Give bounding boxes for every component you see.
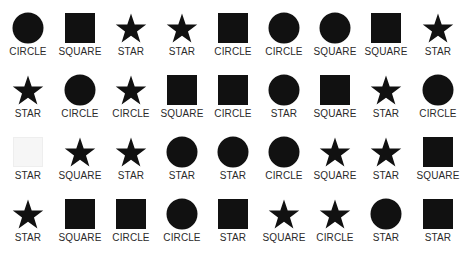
circle-icon — [370, 198, 402, 230]
shape-label: STAR — [2, 170, 54, 181]
shape-label: STAR — [412, 232, 464, 243]
grid-cell: STAR — [412, 0, 464, 62]
star-icon — [64, 136, 96, 168]
shape-label: CIRCLE — [105, 232, 157, 243]
star-icon — [12, 198, 44, 230]
shape-label: SQUARE — [360, 46, 412, 57]
circle-icon — [166, 136, 198, 168]
shape-label: STAR — [360, 232, 412, 243]
grid-cell: SQUARE — [309, 0, 361, 62]
star-icon — [166, 12, 198, 44]
square-icon — [64, 12, 96, 44]
grid-cell: CIRCLE — [54, 62, 106, 124]
shape-label: STAR — [105, 46, 157, 57]
grid-cell: SQUARE — [54, 124, 106, 186]
grid-cell: SQUARE — [258, 186, 310, 248]
shape-label: STAR — [207, 170, 259, 181]
shape-label: STAR — [207, 232, 259, 243]
star-icon — [370, 136, 402, 168]
square-icon — [217, 12, 249, 44]
shape-label: SQUARE — [54, 170, 106, 181]
shape-label: CIRCLE — [309, 232, 361, 243]
shape-label: STAR — [360, 108, 412, 119]
star-icon — [319, 198, 351, 230]
shape-label: CIRCLE — [156, 232, 208, 243]
circle-icon — [64, 74, 96, 106]
shape-label: SQUARE — [412, 170, 464, 181]
grid-cell: SQUARE — [309, 124, 361, 186]
grid-cell: STAR — [2, 62, 54, 124]
shape-label: STAR — [258, 108, 310, 119]
grid-cell: STAR — [258, 62, 310, 124]
grid-cell: STAR — [156, 124, 208, 186]
square-icon — [422, 198, 454, 230]
square-icon — [166, 74, 198, 106]
square-icon — [370, 12, 402, 44]
shape-label: SQUARE — [258, 232, 310, 243]
shape-label: STAR — [105, 170, 157, 181]
shape-label: CIRCLE — [105, 108, 157, 119]
grid-cell: SQUARE — [54, 186, 106, 248]
circle-icon — [217, 136, 249, 168]
shape-label: STAR — [360, 170, 412, 181]
shape-label-grid: CIRCLESQUARESTARSTARCIRCLECIRCLESQUARESQ… — [0, 0, 467, 259]
grid-cell: STAR — [412, 186, 464, 248]
grid-cell: STAR — [360, 62, 412, 124]
grid-cell: STAR — [360, 124, 412, 186]
circle-icon — [422, 74, 454, 106]
star-icon — [422, 12, 454, 44]
shape-label: CIRCLE — [258, 170, 310, 181]
shape-label: STAR — [2, 108, 54, 119]
grid-cell: STAR — [105, 124, 157, 186]
grid-cell: CIRCLE — [309, 186, 361, 248]
grid-cell: STAR — [207, 186, 259, 248]
grid-cell: CIRCLE — [207, 62, 259, 124]
grid-cell: STAR — [360, 186, 412, 248]
grid-cell: STAR — [2, 186, 54, 248]
grid-cell: SQUARE — [156, 62, 208, 124]
grid-cell: SQUARE — [309, 62, 361, 124]
shape-label: SQUARE — [54, 232, 106, 243]
shape-label: SQUARE — [54, 46, 106, 57]
shape-label: SQUARE — [309, 170, 361, 181]
star-icon — [115, 74, 147, 106]
star-icon — [115, 136, 147, 168]
shape-label: SQUARE — [309, 108, 361, 119]
circle-icon — [319, 12, 351, 44]
circle-icon — [268, 12, 300, 44]
grid-cell: CIRCLE — [156, 186, 208, 248]
shape-label: STAR — [412, 46, 464, 57]
star-icon — [370, 74, 402, 106]
grid-cell: CIRCLE — [258, 0, 310, 62]
grid-cell: SQUARE — [54, 0, 106, 62]
grid-cell: STAR — [2, 124, 54, 186]
square-icon — [64, 198, 96, 230]
grid-cell: STAR — [105, 0, 157, 62]
shape-label: STAR — [156, 170, 208, 181]
shape-label: CIRCLE — [412, 108, 464, 119]
circle-icon — [166, 198, 198, 230]
grid-cell: SQUARE — [360, 0, 412, 62]
square-icon — [217, 198, 249, 230]
star-icon — [268, 198, 300, 230]
grid-cell: CIRCLE — [207, 0, 259, 62]
grid-cell: STAR — [156, 0, 208, 62]
star-icon — [115, 12, 147, 44]
star-icon — [319, 136, 351, 168]
grid-cell: CIRCLE — [105, 186, 157, 248]
shape-label: CIRCLE — [207, 46, 259, 57]
grid-cell: CIRCLE — [412, 62, 464, 124]
square-icon — [217, 74, 249, 106]
grid-cell: CIRCLE — [258, 124, 310, 186]
square-icon — [319, 74, 351, 106]
square-icon — [115, 198, 147, 230]
shape-label: STAR — [156, 46, 208, 57]
shape-label: CIRCLE — [54, 108, 106, 119]
grid-cell: CIRCLE — [2, 0, 54, 62]
grid-cell: SQUARE — [412, 124, 464, 186]
star-icon — [12, 74, 44, 106]
circle-icon — [12, 12, 44, 44]
square-icon — [12, 136, 44, 168]
square-icon — [422, 136, 454, 168]
shape-label: CIRCLE — [258, 46, 310, 57]
